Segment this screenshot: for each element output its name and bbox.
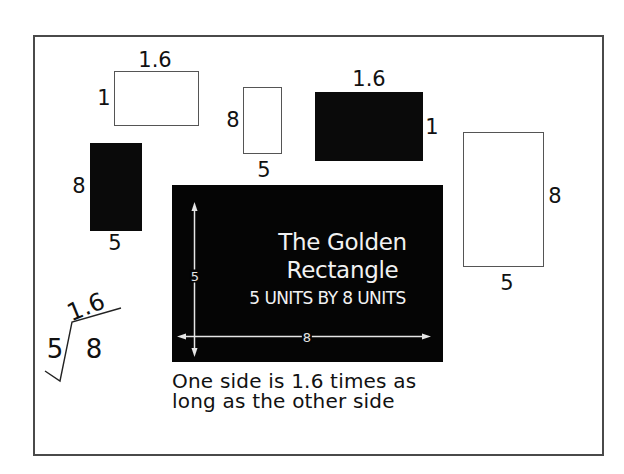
rect-2-width-label: 5 [257, 160, 270, 181]
golden-rectangle-subtitle: 5 UNITS BY 8 UNITS [172, 290, 443, 307]
rect-3-height-label: 1 [425, 117, 438, 138]
golden-rectangle-width-label: 8 [302, 331, 312, 344]
rect-2-height-label: 8 [226, 110, 239, 131]
rectangle-4-outline [463, 132, 544, 267]
long-division-dividend: 8 [86, 336, 103, 362]
caption: One side is 1.6 times as long as the oth… [172, 371, 416, 411]
golden-rectangle-height-label: 5 [190, 270, 200, 283]
rect-5-height-label: 8 [72, 176, 85, 197]
rectangle-3-filled [315, 92, 423, 161]
rect-3-width-label: 1.6 [352, 69, 385, 90]
rect-4-width-label: 5 [500, 273, 513, 294]
golden-rectangle-title-line-1: The Golden [172, 231, 443, 254]
rect-5-width-label: 5 [108, 233, 121, 254]
golden-rectangle-title-line-2: Rectangle [172, 259, 443, 282]
rectangle-5-filled [90, 143, 142, 231]
rectangle-1-outline [114, 71, 199, 126]
long-division-divisor: 5 [47, 336, 64, 362]
rect-1-width-label: 1.6 [138, 50, 171, 71]
caption-line-2: long as the other side [172, 391, 416, 411]
rectangle-2-outline [243, 87, 282, 154]
caption-line-1: One side is 1.6 times as [172, 371, 416, 391]
rect-1-height-label: 1 [97, 88, 110, 109]
rect-4-height-label: 8 [548, 186, 561, 207]
